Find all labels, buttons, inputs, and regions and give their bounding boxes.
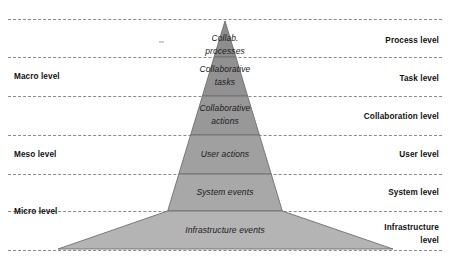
right-label-infrastructure-level: Infrastructure level [384,221,439,247]
right-label-process-level: Process level [385,35,439,47]
tier-label-collaboration: Collaborative actions [168,102,282,128]
pyramid-figure: Collab. processes Collaborative tasks Co… [0,0,451,264]
left-label-macro: Macro level [14,71,60,83]
right-label-system-level: System level [388,187,439,199]
tier-label-user: User actions [165,148,285,161]
tier-label-system: System events [165,186,285,199]
left-label-meso: Meso level [14,149,56,161]
left-label-micro: Micro level [14,206,57,218]
right-label-task-level: Task level [399,73,439,85]
tier-label-process: Collab. processes [185,32,265,58]
right-label-collaboration-level: Collaboration level [364,111,439,123]
tier-label-task: Collaborative tasks [168,63,282,89]
right-label-user-level: User level [399,149,439,161]
tier-label-infrastructure: Infrastructure events [155,224,295,237]
